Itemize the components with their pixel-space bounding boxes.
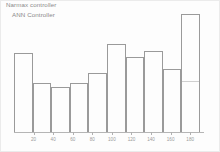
plot-area — [14, 8, 200, 133]
x-axis-tick — [34, 132, 35, 135]
x-axis-tick — [131, 132, 132, 135]
histogram-bar — [88, 73, 107, 133]
x-axis-tick-label: 120 — [128, 137, 136, 142]
x-axis-tick-label: 40 — [51, 137, 56, 142]
x-axis-tick-label: 180 — [186, 137, 194, 142]
x-axis-tick — [171, 132, 172, 135]
histogram-bar — [70, 83, 89, 133]
histogram-bar — [126, 57, 145, 133]
x-axis-tick — [112, 132, 113, 135]
x-axis-line — [14, 132, 204, 133]
histogram-bar — [33, 83, 52, 133]
x-axis-tick — [190, 132, 191, 135]
histogram-bar — [163, 69, 182, 133]
x-axis-tick — [92, 132, 93, 135]
figure-canvas: Narmax controller ANN Controller 2040608… — [0, 0, 220, 152]
histogram-bar — [14, 53, 33, 133]
x-axis-tick-label: 140 — [147, 137, 155, 142]
histogram-bar — [107, 44, 126, 133]
x-axis-tick — [53, 132, 54, 135]
x-axis-tick-label: 80 — [90, 137, 95, 142]
x-axis-tick-label: 20 — [31, 137, 36, 142]
histogram-bar — [51, 87, 70, 133]
x-axis-tick — [151, 132, 152, 135]
histogram-bar — [144, 51, 163, 134]
x-axis-tick — [73, 132, 74, 135]
x-axis-tick-label: 60 — [70, 137, 75, 142]
x-axis-tick-label: 100 — [108, 137, 116, 142]
histogram-bar — [181, 14, 200, 133]
x-axis-tick-label: 160 — [167, 137, 175, 142]
